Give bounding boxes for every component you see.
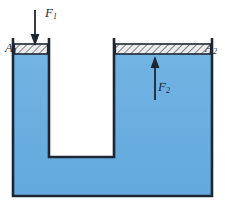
label-force-large-subscript: 2 — [166, 86, 170, 95]
label-force-small-subscript: 1 — [53, 12, 57, 21]
arrow-down-icon — [31, 10, 40, 46]
label-area-large-symbol: A — [205, 40, 213, 55]
label-area-small-subscript: 1 — [13, 47, 17, 56]
fluid-body — [13, 44, 212, 196]
label-force-large-symbol: F — [158, 79, 166, 94]
label-area-small: A1 — [5, 41, 17, 54]
label-force-small: F1 — [45, 6, 57, 19]
label-area-large-subscript: 2 — [213, 47, 217, 56]
label-area-small-symbol: A — [5, 40, 13, 55]
label-area-large: A2 — [205, 41, 217, 54]
label-force-small-symbol: F — [45, 5, 53, 20]
small-piston — [14, 44, 47, 54]
figure-canvas — [0, 0, 225, 212]
large-piston — [115, 44, 210, 54]
inner-channel-outline — [49, 38, 114, 157]
label-force-large: F2 — [158, 80, 170, 93]
hydraulic-press-figure: A1 A2 F1 F2 — [0, 0, 225, 212]
